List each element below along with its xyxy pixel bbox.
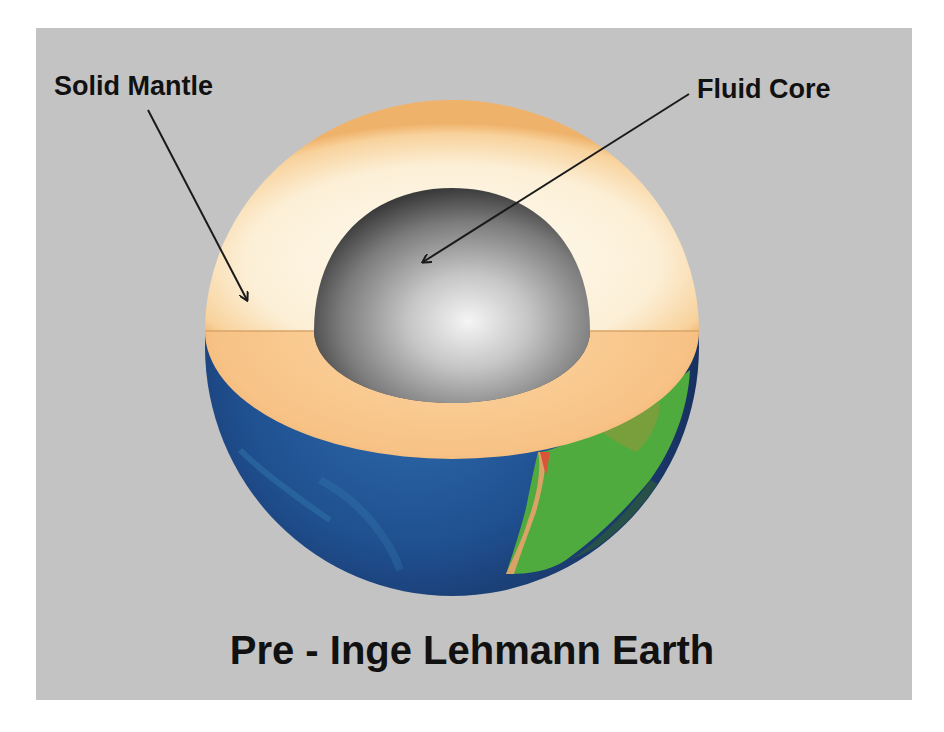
solid-mantle-label: Solid Mantle xyxy=(54,71,213,102)
fluid-core-label: Fluid Core xyxy=(697,74,831,105)
mantle-pointer-arrow xyxy=(148,110,247,300)
diagram-title: Pre - Inge Lehmann Earth xyxy=(0,628,944,673)
earth-cutaway-diagram xyxy=(0,0,944,732)
